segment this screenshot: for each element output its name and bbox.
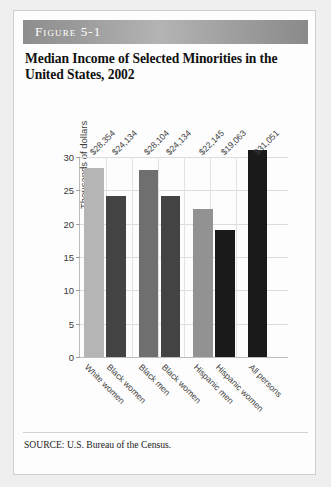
source-note: SOURCE: U.S. Bureau of the Census. bbox=[24, 439, 171, 450]
bar-chart: Thousands of dollars 051015202530 $28,35… bbox=[23, 89, 308, 425]
figure-title-line-2: United States, 2002 bbox=[25, 67, 301, 83]
bar bbox=[193, 209, 213, 357]
y-axis-tick-mark bbox=[76, 190, 80, 191]
y-axis-tick-label: 20 bbox=[63, 218, 74, 229]
y-axis-tick-mark bbox=[76, 324, 80, 325]
bar bbox=[161, 196, 181, 357]
figure-number-label: Figure 5-1 bbox=[35, 24, 101, 40]
bar bbox=[106, 196, 126, 357]
figure-box: Figure 5-1 Median Income of Selected Min… bbox=[13, 10, 316, 475]
y-axis-tick-label: 0 bbox=[69, 352, 74, 363]
gridline-vertical bbox=[132, 157, 133, 357]
y-axis-tick-label: 25 bbox=[63, 185, 74, 196]
source-divider bbox=[23, 432, 308, 433]
y-axis-tick-mark bbox=[76, 157, 80, 158]
gridline-vertical bbox=[236, 157, 237, 357]
y-axis-tick-mark bbox=[76, 290, 80, 291]
figure-banner: Figure 5-1 bbox=[23, 20, 308, 44]
y-axis-tick-label: 5 bbox=[69, 318, 74, 329]
bar bbox=[215, 230, 235, 357]
y-axis-tick-mark bbox=[76, 224, 80, 225]
y-axis-tick-label: 30 bbox=[63, 152, 74, 163]
plot-area: Thousands of dollars 051015202530 $28,35… bbox=[79, 157, 288, 358]
bar bbox=[84, 168, 104, 357]
bar bbox=[139, 170, 159, 357]
y-axis-tick-mark bbox=[76, 257, 80, 258]
gridline-vertical bbox=[184, 157, 185, 357]
y-axis-tick-label: 10 bbox=[63, 285, 74, 296]
y-axis-tick-mark bbox=[76, 357, 80, 358]
y-axis-tick-label: 15 bbox=[63, 252, 74, 263]
bar bbox=[248, 150, 268, 357]
figure-title: Median Income of Selected Minorities in … bbox=[25, 51, 301, 83]
figure-title-line-1: Median Income of Selected Minorities in … bbox=[25, 51, 301, 67]
